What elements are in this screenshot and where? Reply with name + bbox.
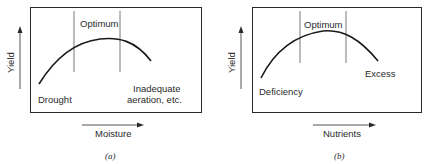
panel-a-x-axis-label: Moisture: [95, 128, 131, 139]
panel-b: Optimum Deficiency Excess Yield Nutrient…: [226, 8, 422, 162]
panel-b-optimum-label: Optimum: [304, 19, 343, 30]
panel-b-left-label: Deficiency: [259, 86, 303, 97]
panel-b-x-axis-label: Nutrients: [323, 128, 361, 139]
panel-a-x-arrowhead-icon: [137, 123, 144, 128]
panel-b-yield-curve: [261, 31, 378, 78]
panel-b-y-axis-label: Yield: [226, 52, 237, 73]
panel-b-y-arrowhead-icon: [239, 26, 244, 33]
diagram-canvas: Optimum Drought Inadequate aeration, etc…: [0, 0, 428, 164]
panel-a-left-label: Drought: [38, 94, 72, 105]
panel-a-caption: (a): [105, 151, 116, 161]
panel-a-yield-curve: [39, 38, 151, 84]
panel-a-optimum-label: Optimum: [80, 18, 119, 29]
panel-a-right-label-2: aeration, etc.: [127, 94, 182, 105]
panel-a: Optimum Drought Inadequate aeration, etc…: [5, 8, 202, 162]
panel-b-x-arrowhead-icon: [369, 123, 376, 128]
panel-a-y-axis-label: Yield: [5, 52, 16, 73]
panel-b-caption: (b): [334, 151, 345, 161]
panel-a-y-arrowhead-icon: [18, 26, 23, 33]
panel-a-right-label-1: Inadequate: [133, 83, 181, 94]
panel-b-right-label: Excess: [365, 68, 396, 79]
